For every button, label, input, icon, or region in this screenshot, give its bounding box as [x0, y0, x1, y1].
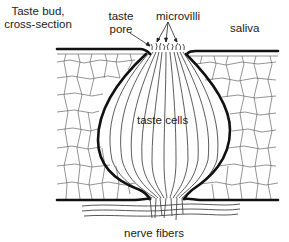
taste-pore-label: taste pore: [104, 10, 138, 36]
title-line-2: cross-section: [2, 18, 74, 31]
taste-cells-label: taste cells: [137, 114, 188, 127]
epithelium-cells-right: [190, 56, 278, 199]
nerve-fibers-label: nerve fibers: [124, 227, 184, 240]
taste-pore-line-2: pore: [104, 23, 138, 36]
title-line-1: Taste bud,: [2, 5, 74, 18]
microvilli-label: microvilli: [156, 10, 200, 23]
taste-bud-diagram: Taste bud, cross-section taste pore micr…: [0, 0, 289, 242]
diagram-title: Taste bud, cross-section: [2, 5, 74, 31]
microvilli-tufts: [151, 43, 184, 50]
saliva-label: saliva: [230, 22, 259, 35]
taste-pore-line-1: taste: [104, 10, 138, 23]
